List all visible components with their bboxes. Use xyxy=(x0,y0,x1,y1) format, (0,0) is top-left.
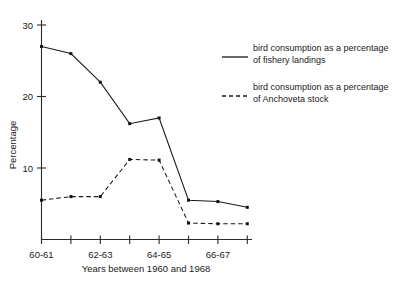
legend-label-anchoveta-stock-line1: bird consumption as a percentage xyxy=(253,82,389,92)
data-point-marker xyxy=(246,222,249,225)
data-point-marker xyxy=(128,158,131,161)
data-point-marker xyxy=(69,195,72,198)
data-point-marker xyxy=(99,81,102,84)
legend-entry-fishery-landings: bird consumption as a percentage of fish… xyxy=(222,43,389,65)
chart-legend: bird consumption as a percentage of fish… xyxy=(222,43,389,104)
x-tick-label-66-67: 66-67 xyxy=(206,249,230,260)
y-tick-label-20: 20 xyxy=(22,91,33,102)
series-fishery-landings-markers xyxy=(40,45,249,209)
data-point-marker xyxy=(40,45,43,48)
data-point-marker xyxy=(216,222,219,225)
data-point-marker xyxy=(187,199,190,202)
y-tick-label-10: 10 xyxy=(22,163,33,174)
series-fishery-landings xyxy=(40,45,249,209)
series-anchoveta-stock xyxy=(40,158,249,225)
data-point-marker xyxy=(40,199,43,202)
legend-label-fishery-landings-line1: bird consumption as a percentage xyxy=(253,43,389,53)
x-tick-label-62-63: 62-63 xyxy=(88,249,112,260)
data-point-marker xyxy=(246,206,249,209)
series-anchoveta-stock-markers xyxy=(40,158,249,225)
data-point-marker xyxy=(216,200,219,203)
x-tick-label-64-65: 64-65 xyxy=(147,249,171,260)
data-point-marker xyxy=(158,116,161,119)
y-axis-title: Percentage xyxy=(7,121,18,170)
legend-label-anchoveta-stock-line2: of Anchoveta stock xyxy=(253,94,329,104)
legend-label-fishery-landings-line2: of fishery landings xyxy=(253,55,326,65)
data-point-marker xyxy=(187,222,190,225)
series-fishery-landings-path xyxy=(42,46,248,207)
data-point-marker xyxy=(99,195,102,198)
data-point-marker xyxy=(69,52,72,55)
line-chart-canvas: 30 20 10 Percentage 60-61 62-63 64-65 66… xyxy=(0,0,402,281)
legend-entry-anchoveta-stock: bird consumption as a percentage of Anch… xyxy=(222,82,389,104)
y-tick-label-30: 30 xyxy=(22,20,33,31)
data-point-marker xyxy=(128,122,131,125)
chart-axes xyxy=(42,20,253,240)
chart-figure: 30 20 10 Percentage 60-61 62-63 64-65 66… xyxy=(0,0,402,281)
data-point-marker xyxy=(158,159,161,162)
series-anchoveta-stock-path xyxy=(42,159,248,223)
x-tick-label-60-61: 60-61 xyxy=(29,249,53,260)
x-axis-title: Years between 1960 and 1968 xyxy=(82,263,211,274)
